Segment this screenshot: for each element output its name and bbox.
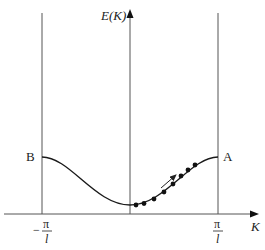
electron-dot [193, 163, 198, 168]
left-tick-numerator: π [43, 217, 49, 231]
electron-dot [152, 197, 157, 202]
electron-dot [142, 201, 147, 206]
right-tick-label: π l [213, 217, 223, 246]
x-axis-arrow-icon [250, 211, 259, 218]
right-tick-numerator: π [214, 217, 220, 231]
y-axis-label: E(K) [100, 8, 126, 23]
electron-dot [134, 203, 139, 208]
electron-dot [179, 174, 184, 179]
left-tick-denominator: l [45, 232, 49, 246]
x-axis-label: K [250, 219, 261, 234]
left-tick-label: − π l [33, 217, 52, 246]
electron-dot [186, 168, 191, 173]
point-b-label: B [26, 149, 35, 164]
left-tick-sign: − [33, 223, 40, 237]
electron-dots [134, 163, 198, 208]
electron-dot [162, 190, 167, 195]
right-tick-denominator: l [216, 232, 220, 246]
band-diagram: E(K) K B A − π l π l [0, 0, 265, 250]
point-a-label: A [223, 149, 233, 164]
y-axis-arrow-icon [127, 9, 134, 18]
electron-dot [171, 182, 176, 187]
